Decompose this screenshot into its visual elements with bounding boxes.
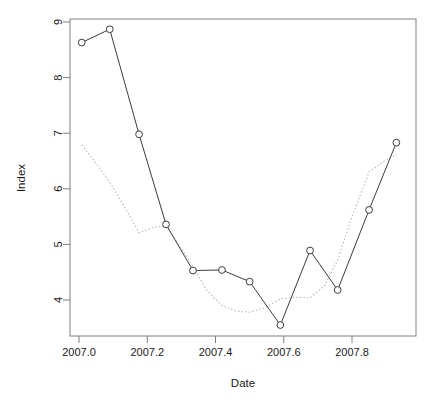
data-point-marker	[277, 322, 284, 329]
x-tick-label: 2007.8	[335, 346, 369, 358]
chart-plot-area: 456789 2007.02007.22007.42007.62007.8 Da…	[0, 0, 430, 406]
x-tick-label: 2007.4	[199, 346, 233, 358]
data-point-marker	[366, 207, 373, 214]
y-tick-label: 8	[52, 75, 64, 81]
data-point-marker	[246, 278, 253, 285]
x-tick-label: 2007.2	[130, 346, 164, 358]
data-point-marker	[106, 26, 113, 33]
x-tick-label: 2007.6	[267, 346, 301, 358]
data-point-marker	[219, 267, 226, 274]
y-tick-label: 7	[52, 130, 64, 136]
y-tick-label: 9	[52, 19, 64, 25]
data-point-marker	[190, 267, 197, 274]
x-axis-title: Date	[231, 377, 255, 389]
y-tick-label: 5	[52, 241, 64, 247]
data-point-marker	[78, 39, 85, 46]
y-tick-label: 4	[52, 297, 64, 303]
y-axis-title: Index	[15, 164, 27, 192]
data-point-marker	[163, 221, 170, 228]
y-tick-label: 6	[52, 186, 64, 192]
data-point-marker	[393, 139, 400, 146]
data-point-marker	[307, 247, 314, 254]
data-point-marker	[136, 131, 143, 138]
data-point-marker	[334, 287, 341, 294]
line-chart: 456789 2007.02007.22007.42007.62007.8 Da…	[0, 0, 430, 406]
x-tick-label: 2007.0	[62, 346, 96, 358]
